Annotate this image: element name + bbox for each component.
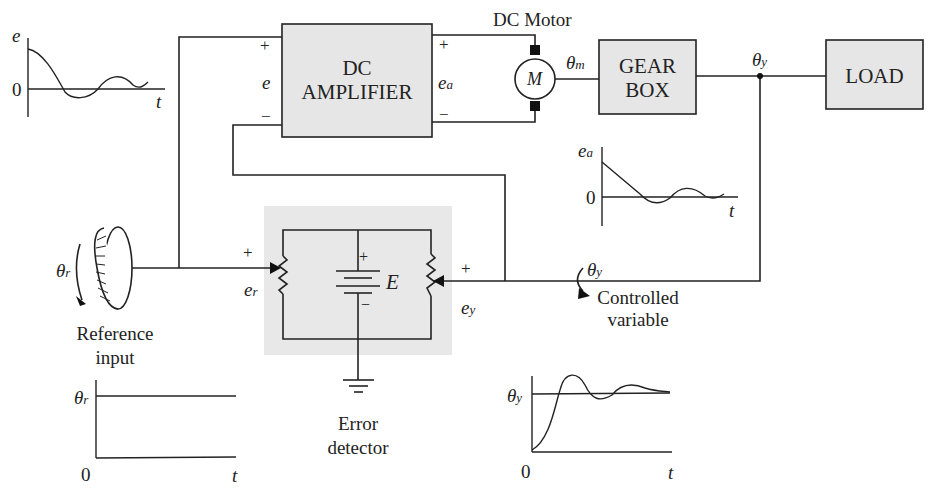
gearbox-line1: GEAR bbox=[599, 54, 696, 78]
reference-theta-r: θr bbox=[56, 261, 70, 280]
amplifier-label: DC AMPLIFIER bbox=[282, 56, 432, 104]
dc-motor-title: DC Motor bbox=[493, 10, 572, 29]
graph-theta-r-ylabel: θr bbox=[74, 388, 88, 407]
signal-ey: ey bbox=[461, 298, 475, 317]
graph-theta-r-xlabel: t bbox=[232, 466, 237, 485]
amp-in-plus: + bbox=[260, 37, 270, 54]
reference-line1: Reference bbox=[70, 322, 160, 346]
graph-e-ylabel: e bbox=[12, 26, 20, 45]
graph-theta-r-origin: 0 bbox=[81, 465, 91, 484]
graph-theta-y-origin: 0 bbox=[521, 462, 531, 481]
signal-er: er bbox=[244, 280, 258, 299]
gearbox-line2: BOX bbox=[599, 78, 696, 102]
gearbox-label: GEAR BOX bbox=[599, 54, 696, 102]
battery-label: E bbox=[386, 272, 399, 293]
controlled-line1: Controlled bbox=[592, 287, 684, 309]
controlled-theta-y: θy bbox=[587, 260, 602, 279]
graph-e-xlabel: t bbox=[156, 92, 161, 111]
amp-in-minus: − bbox=[261, 108, 271, 125]
signal-ea: ea bbox=[438, 73, 453, 92]
graph-theta-y-xlabel: t bbox=[668, 463, 673, 482]
amp-out-minus: − bbox=[439, 106, 449, 123]
controlled-variable-label: Controlled variable bbox=[592, 287, 684, 331]
error-detector-line1: Error bbox=[318, 412, 398, 436]
graph-ea-origin: 0 bbox=[586, 188, 596, 207]
graph-theta-y-ylabel: θy bbox=[507, 386, 522, 405]
er-plus: + bbox=[243, 244, 253, 261]
error-detector-line2: detector bbox=[318, 436, 398, 460]
reference-input-label: Reference input bbox=[70, 322, 160, 370]
amplifier-line2: AMPLIFIER bbox=[282, 80, 432, 104]
error-detector-label: Error detector bbox=[318, 412, 398, 460]
battery-minus: − bbox=[361, 297, 370, 313]
graph-e-origin: 0 bbox=[12, 80, 22, 99]
diagram-wiring bbox=[0, 0, 938, 494]
battery-plus: + bbox=[359, 249, 368, 265]
signal-e: e bbox=[262, 73, 270, 92]
amp-out-plus: + bbox=[439, 36, 449, 53]
ey-plus: + bbox=[461, 260, 471, 277]
graph-ea-xlabel: t bbox=[729, 201, 734, 220]
graph-ea-ylabel: ea bbox=[578, 141, 593, 160]
controlled-line2: variable bbox=[592, 309, 684, 331]
amplifier-line1: DC bbox=[282, 56, 432, 80]
signal-theta-y: θy bbox=[752, 50, 767, 69]
signal-theta-m: θm bbox=[566, 53, 585, 72]
load-label: LOAD bbox=[826, 64, 923, 88]
servo-system-diagram: DC AMPLIFIER GEAR BOX LOAD DC Motor M + … bbox=[0, 0, 938, 494]
motor-symbol: M bbox=[527, 70, 542, 88]
reference-line2: input bbox=[70, 346, 160, 370]
